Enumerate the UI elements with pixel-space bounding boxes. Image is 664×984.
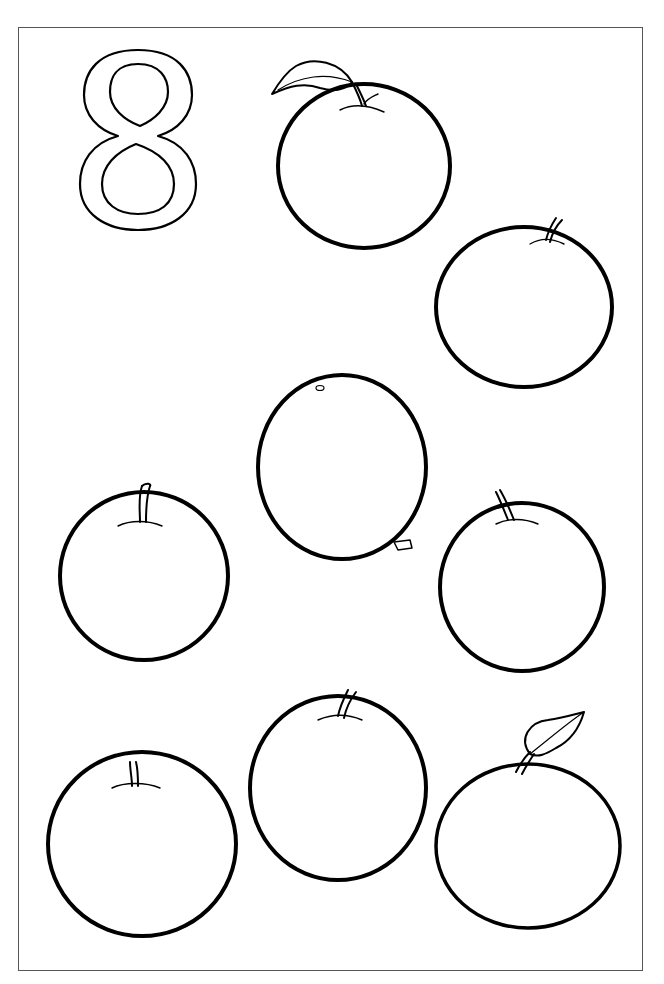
apple-2 — [436, 218, 612, 387]
apple-7 — [250, 690, 426, 880]
apple-6 — [48, 752, 236, 936]
apple-1 — [272, 61, 450, 248]
coloring-page — [0, 0, 664, 984]
apple-8 — [436, 712, 620, 928]
coloring-artwork — [0, 0, 664, 984]
apple-4 — [60, 484, 228, 660]
apple-3 — [258, 375, 426, 559]
numeral-eight-outline — [80, 50, 196, 230]
apple-5 — [440, 490, 604, 671]
